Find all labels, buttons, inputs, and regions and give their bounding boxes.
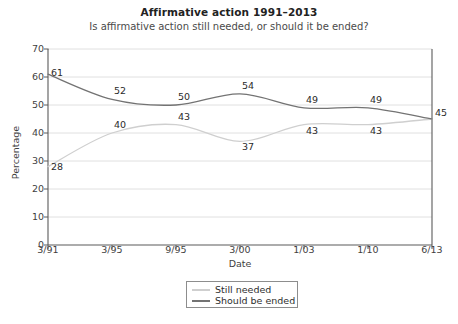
data-point-label: 40	[114, 120, 126, 130]
legend-swatch-icon	[192, 300, 210, 302]
chart-legend: Still needed Should be ended	[186, 281, 298, 308]
data-point-label: 49	[306, 95, 318, 105]
data-point-label: 28	[51, 162, 63, 172]
data-point-label: 50	[178, 92, 190, 102]
data-point-label: 52	[114, 86, 126, 96]
data-point-label: 43	[306, 126, 318, 136]
data-point-label: 43	[370, 126, 382, 136]
data-point-label: 37	[242, 142, 254, 152]
legend-item-should-be-ended: Should be ended	[192, 295, 295, 307]
legend-swatch-icon	[192, 289, 210, 291]
data-point-label: 61	[51, 68, 63, 78]
affirmative-action-line-chart: Affirmative action 1991–2013 Is affirmat…	[0, 0, 458, 324]
legend-item-label: Still needed	[215, 285, 271, 295]
data-point-label: 43	[178, 112, 190, 122]
legend-item-label: Should be ended	[215, 296, 295, 306]
data-point-label: 45	[435, 108, 447, 118]
data-point-label: 49	[370, 95, 382, 105]
plot-area	[0, 0, 458, 324]
data-point-label: 54	[242, 81, 254, 91]
